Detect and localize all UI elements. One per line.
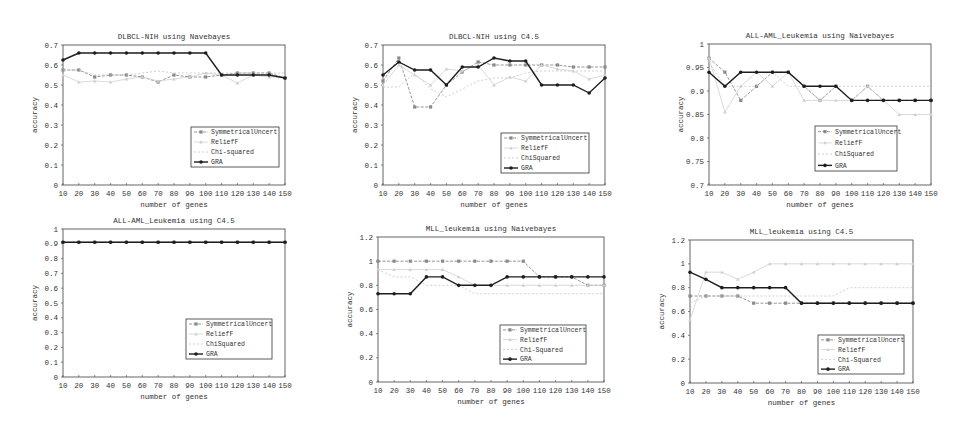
y-axis: 0.70.750.80.850.90.951accuracy [677,41,709,190]
y-tick-label: 0.6 [359,306,373,314]
x-tick-label: 30 [736,190,746,198]
series-chi-squared [378,270,604,294]
x-tick-label: 120 [877,190,891,198]
data-point-marker [93,241,97,245]
y-tick-label: 0.3 [364,122,378,130]
x-tick-label: 40 [426,190,436,198]
data-point-marker [570,275,574,279]
data-point-marker [125,51,129,55]
data-point-marker [409,260,412,263]
data-point-marker [723,71,726,74]
y-tick-label: 0.4 [44,102,58,110]
x-tick-label: 140 [581,387,595,395]
series-line [690,264,913,320]
x-axis-label: number of genes [457,398,525,406]
data-point-marker [688,294,691,297]
y-tick-label: 0.1 [364,162,378,170]
y-tick-label: 0.4 [671,332,685,340]
y-tick-label: 0.6 [44,62,58,70]
data-point-marker [236,241,240,245]
data-point-marker [602,275,606,279]
series-symmetricaluncert [707,57,932,103]
data-point-marker [755,70,759,74]
data-point-marker [784,302,787,305]
x-tick-label: 50 [122,190,132,198]
x-tick-label: 20 [74,190,84,198]
data-point-marker [823,164,827,168]
data-point-marker [895,301,899,305]
y-tick-label: 0 [680,380,685,388]
x-tick-label: 50 [438,387,448,395]
data-point-marker [441,275,445,279]
data-point-marker [522,260,525,263]
x-tick-label: 120 [551,190,565,198]
data-point-marker [506,260,509,263]
x-tick-label: 10 [58,190,68,198]
x-tick-label: 100 [827,388,841,396]
x-tick-label: 110 [843,388,857,396]
x-tick-label: 10 [58,382,68,390]
series-line [378,270,604,294]
data-point-marker [768,286,772,290]
x-tick-label: 20 [74,382,84,390]
data-point-marker [267,241,271,245]
data-point-marker [521,275,525,279]
y-axis-label: accuracy [31,285,39,322]
legend: SymmetricalUncertReliefFChi-SquaredGRA [818,335,904,374]
data-point-marker [220,241,224,245]
x-tick-label: 120 [231,190,245,198]
data-point-marker [251,241,255,245]
x-tick-label: 30 [410,190,420,198]
x-tick-label: 110 [861,190,875,198]
data-point-marker [109,241,113,245]
legend-entry: SymmetricalUncert [521,135,587,142]
y-axis: 00.10.20.30.40.50.60.7accuracy [31,42,63,190]
data-point-marker [376,260,379,263]
y-tick-label: 0.4 [359,330,373,338]
chart-title: DLBCL-NIH using C4.5 [449,33,540,41]
data-point-marker [93,75,96,78]
data-point-marker [508,59,512,63]
data-point-marker [188,241,192,245]
y-axis-label: accuracy [31,97,39,134]
legend-entry: GRA [521,165,533,172]
x-axis-label: number of genes [140,201,208,209]
data-point-marker [441,260,444,263]
x-axis: 102030405060708090100110120130140150numb… [373,380,611,406]
x-tick-label: 100 [517,387,531,395]
x-tick-label: 70 [800,190,810,198]
data-point-marker [283,241,287,245]
x-tick-label: 20 [390,387,400,395]
x-tick-label: 150 [278,382,292,390]
data-point-marker [473,284,477,288]
legend-entry: ReliefF [206,331,233,338]
y-tick-label: 0.4 [44,314,58,322]
data-point-marker [413,105,416,108]
y-tick-label: 0.85 [686,111,705,119]
data-point-marker [156,51,160,55]
y-tick-label: 1 [368,258,373,266]
x-tick-label: 140 [262,190,276,198]
data-point-marker [911,301,915,305]
data-point-marker [603,73,607,76]
data-point-marker [538,275,542,279]
legend-entry: SymmetricalUncert [838,337,904,344]
y-tick-label: 0.2 [364,142,378,150]
data-point-marker [429,105,432,108]
y-tick-label: 0.4 [364,102,378,110]
legend: SymmetricalUncertReliefFChiSquaredGRA [501,133,589,173]
data-point-marker [897,99,901,103]
series-symmetricaluncert [376,260,605,287]
y-tick-label: 1 [699,41,704,49]
x-tick-label: 30 [90,190,100,198]
data-point-marker [408,292,412,296]
data-point-marker [603,65,606,68]
chart-panel-2: DLBCL-NIH using C4.500.10.20.30.40.50.60… [351,33,612,209]
data-point-marker [571,83,575,87]
data-point-marker [194,322,197,325]
data-point-marker [736,286,740,290]
data-point-marker [540,83,544,87]
x-tick-label: 120 [231,382,245,390]
data-point-marker [863,301,867,305]
data-point-marker [199,130,202,133]
